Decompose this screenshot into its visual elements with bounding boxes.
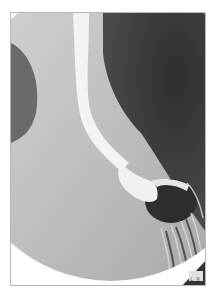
marker-label: L R bbox=[190, 276, 201, 282]
radiograph-frame: L R bbox=[10, 12, 206, 286]
radiograph-image bbox=[11, 13, 206, 286]
